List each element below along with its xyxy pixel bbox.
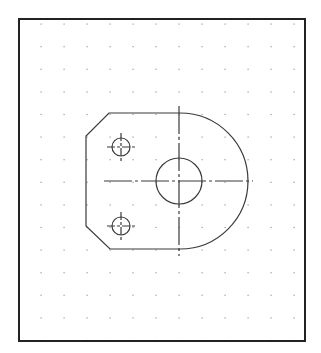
grid-dot (64, 227, 65, 228)
grid-dot (294, 227, 295, 228)
grid-dot (110, 114, 111, 115)
grid-dot (110, 295, 111, 296)
grid-dot (225, 204, 226, 205)
grid-dot (225, 69, 226, 70)
grid-dot (87, 24, 88, 25)
grid-dot (87, 114, 88, 115)
grid-dot (225, 46, 226, 47)
grid-dot (294, 159, 295, 160)
grid-dot (202, 272, 203, 273)
grid-dot (110, 24, 111, 25)
small-hole-2[interactable] (107, 212, 135, 240)
grid-dot (294, 272, 295, 273)
grid-dot (202, 114, 203, 115)
grid-dot (133, 24, 134, 25)
grid-dot (41, 137, 42, 138)
grid-dot (294, 91, 295, 92)
grid-dot (179, 91, 180, 92)
grid-dot (87, 204, 88, 205)
grid-dot (202, 295, 203, 296)
grid-dot (179, 317, 180, 318)
grid-dot (41, 250, 42, 251)
grid-dot (87, 69, 88, 70)
grid-dot (87, 317, 88, 318)
grid-dot (133, 272, 134, 273)
grid-dot (133, 69, 134, 70)
grid-dot (156, 227, 157, 228)
grid-dot (110, 46, 111, 47)
grid-dot (248, 250, 249, 251)
grid-dot (64, 91, 65, 92)
grid-dot (271, 159, 272, 160)
grid-dot (248, 24, 249, 25)
grid-dot (202, 46, 203, 47)
grid-dot (202, 317, 203, 318)
grid-dot (156, 272, 157, 273)
grid-dot (64, 137, 65, 138)
grid-dot (294, 46, 295, 47)
grid-dot (202, 24, 203, 25)
grid-dot (41, 114, 42, 115)
grid-dot (64, 272, 65, 273)
grid-dot (41, 317, 42, 318)
grid-dot (225, 295, 226, 296)
grid-dot (156, 159, 157, 160)
grid-dot (110, 272, 111, 273)
grid-dot (156, 91, 157, 92)
grid-dot (294, 137, 295, 138)
grid-dot (271, 250, 272, 251)
grid-dot (133, 114, 134, 115)
grid-dot (248, 69, 249, 70)
grid-dot (41, 159, 42, 160)
grid-dot (225, 137, 226, 138)
grid-dot (248, 159, 249, 160)
grid-dot (248, 272, 249, 273)
grid-dot (41, 272, 42, 273)
grid-dot (225, 227, 226, 228)
grid-dot (133, 204, 134, 205)
grid-dot (225, 91, 226, 92)
grid-dot (110, 227, 111, 228)
grid-dot (156, 250, 157, 251)
grid-dot (248, 204, 249, 205)
grid-dot (294, 182, 295, 183)
grid-dot (110, 159, 111, 160)
grid-dot (294, 204, 295, 205)
grid-dot (179, 295, 180, 296)
grid-dot (179, 24, 180, 25)
grid-dot (41, 24, 42, 25)
grid-dot (87, 272, 88, 273)
grid-dot (156, 24, 157, 25)
grid-dot (248, 227, 249, 228)
grid-dot (156, 137, 157, 138)
grid-dot (225, 250, 226, 251)
grid-dot (202, 250, 203, 251)
grid-dot (64, 295, 65, 296)
grid-dot (133, 227, 134, 228)
grid-dot (271, 227, 272, 228)
grid-dot (64, 250, 65, 251)
grid-dot (271, 114, 272, 115)
cad-drawing-canvas[interactable] (0, 0, 321, 353)
grid-dot (179, 46, 180, 47)
grid-dot (156, 295, 157, 296)
drawing-frame (19, 19, 305, 341)
grid-dot (64, 114, 65, 115)
grid-dot (225, 182, 226, 183)
grid-dot (271, 295, 272, 296)
small-hole-1[interactable] (107, 133, 135, 161)
grid-dot (110, 204, 111, 205)
grid-dot (41, 91, 42, 92)
grid-dot (202, 159, 203, 160)
grid-dot (248, 295, 249, 296)
grid-dot (110, 137, 111, 138)
grid-dot (179, 272, 180, 273)
grid-dot (64, 204, 65, 205)
grid-dot (41, 182, 42, 183)
grid-dot (156, 46, 157, 47)
grid-dots (41, 24, 295, 342)
grid-dot (294, 24, 295, 25)
grid-dot (41, 295, 42, 296)
grid-dot (133, 182, 134, 183)
grid-dot (87, 159, 88, 160)
